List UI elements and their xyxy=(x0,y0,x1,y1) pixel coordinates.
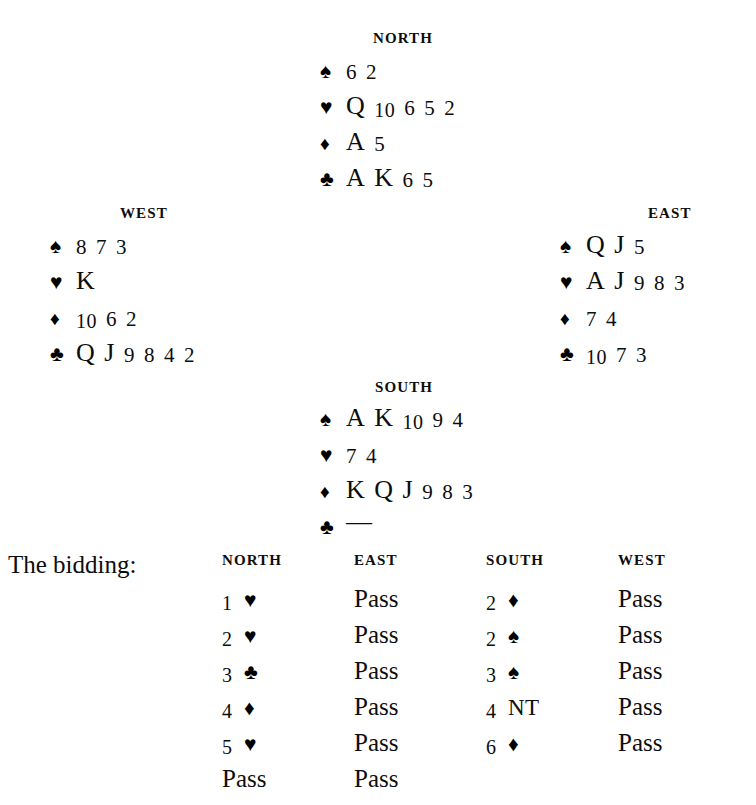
bidding-header-row: NORTHEASTSOUTHWEST xyxy=(222,552,750,585)
bidding-column-header-north: NORTH xyxy=(222,552,354,569)
bid-cell: Pass xyxy=(618,585,750,613)
south-label: SOUTH xyxy=(375,379,433,396)
card-ranks: 873 xyxy=(76,230,136,260)
bid-cell: 3♠ xyxy=(486,660,618,685)
diamond-icon: ♦ xyxy=(320,134,346,153)
card-rank: K xyxy=(374,163,393,193)
suit-row-spade: ♠62 xyxy=(320,55,464,91)
card-rank: A xyxy=(346,127,365,157)
bid-cell: Pass xyxy=(222,765,354,793)
spade-icon: ♠ xyxy=(50,236,76,257)
card-rank: A xyxy=(346,163,365,193)
card-ranks: QJ9842 xyxy=(76,338,204,368)
spade-icon: ♠ xyxy=(560,236,586,257)
bid-denomination-nt: NT xyxy=(508,695,540,721)
diamond-icon: ♦ xyxy=(244,696,255,721)
card-ranks: 1073 xyxy=(586,338,656,368)
card-rank: A xyxy=(346,403,365,433)
bidding-row: 3♣Pass3♠Pass xyxy=(222,657,750,693)
bidding-row: 1♥Pass2♦Pass xyxy=(222,585,750,621)
card-rank: 2 xyxy=(366,60,377,85)
heart-icon: ♥ xyxy=(244,624,256,649)
suit-row-spade: ♠873 xyxy=(50,230,204,266)
diamond-icon: ♦ xyxy=(50,309,76,328)
bid-level: 2 xyxy=(222,628,232,651)
suit-row-club: ♣AK65 xyxy=(320,163,464,199)
spade-icon: ♠ xyxy=(508,660,519,685)
bidding-table: NORTHEASTSOUTHWEST 1♥Pass2♦Pass2♥Pass2♠P… xyxy=(222,552,750,801)
card-rank: 5 xyxy=(634,235,645,260)
east-label: EAST xyxy=(648,205,692,222)
south-hand: ♠AK1094♥74♦KQJ983♣— xyxy=(320,403,482,547)
bid-level: 6 xyxy=(486,736,496,759)
bid-cell: Pass xyxy=(618,621,750,649)
suit-row-diamond: ♦KQJ983 xyxy=(320,475,482,511)
card-rank: J xyxy=(614,266,625,296)
suit-row-spade: ♠QJ5 xyxy=(560,230,694,266)
bid-cell: Pass xyxy=(354,765,486,793)
suit-row-heart: ♥Q10652 xyxy=(320,91,464,127)
card-ranks: QJ5 xyxy=(586,230,654,260)
bid-level: 5 xyxy=(222,736,232,759)
card-rank: Q xyxy=(346,91,365,121)
card-rank: 10 xyxy=(76,310,97,333)
card-rank: 9 xyxy=(124,343,135,368)
suit-row-club: ♣QJ9842 xyxy=(50,338,204,374)
card-rank: J xyxy=(614,230,625,260)
bid-cell: 6♦ xyxy=(486,732,618,757)
club-icon: ♣ xyxy=(560,344,586,365)
bidding-column-header-west: WEST xyxy=(618,552,750,569)
bid-cell: 2♠ xyxy=(486,624,618,649)
card-rank: 5 xyxy=(423,168,434,193)
card-rank: A xyxy=(586,266,605,296)
suit-row-heart: ♥74 xyxy=(320,439,482,475)
bid-cell: 2♥ xyxy=(222,624,354,649)
north-label: NORTH xyxy=(373,30,433,47)
bid-pass: Pass xyxy=(618,693,662,721)
west-hand: ♠873♥K♦1062♣QJ9842 xyxy=(50,230,204,374)
card-rank: 10 xyxy=(586,346,607,369)
diamond-icon: ♦ xyxy=(560,309,586,328)
card-ranks: 1062 xyxy=(76,302,146,332)
bidding-row: 2♥Pass2♠Pass xyxy=(222,621,750,657)
club-icon: ♣ xyxy=(320,517,346,538)
card-rank: 4 xyxy=(453,408,464,433)
bid-level: 2 xyxy=(486,592,496,615)
card-rank: 8 xyxy=(442,480,453,505)
bidding-row: 4♦Pass4NTPass xyxy=(222,693,750,729)
bid-pass: Pass xyxy=(222,765,266,793)
suit-row-club: ♣1073 xyxy=(560,338,694,374)
suit-row-heart: ♥AJ983 xyxy=(560,266,694,302)
card-rank: 3 xyxy=(636,343,647,368)
card-ranks: Q10652 xyxy=(346,91,464,121)
club-icon: ♣ xyxy=(244,660,258,685)
bid-cell: Pass xyxy=(618,657,750,685)
card-rank: 6 xyxy=(403,168,414,193)
bidding-body: 1♥Pass2♦Pass2♥Pass2♠Pass3♣Pass3♠Pass4♦Pa… xyxy=(222,585,750,801)
heart-icon: ♥ xyxy=(320,97,346,118)
card-rank: 2 xyxy=(444,96,455,121)
suit-row-diamond: ♦1062 xyxy=(50,302,204,338)
card-rank: 9 xyxy=(634,271,645,296)
card-rank: 5 xyxy=(374,132,385,157)
card-rank: 3 xyxy=(116,235,127,260)
heart-icon: ♥ xyxy=(320,445,346,466)
bid-level: 4 xyxy=(486,700,496,723)
card-ranks: AJ983 xyxy=(586,266,694,296)
card-rank: 3 xyxy=(462,480,473,505)
diamond-icon: ♦ xyxy=(508,732,519,757)
card-ranks: A5 xyxy=(346,127,394,157)
heart-icon: ♥ xyxy=(50,272,76,293)
card-rank: K xyxy=(346,475,365,505)
card-rank: J xyxy=(104,338,115,368)
bid-level: 3 xyxy=(486,664,496,687)
card-ranks: — xyxy=(346,511,381,541)
card-ranks: AK1094 xyxy=(346,403,473,433)
card-rank: 7 xyxy=(616,343,627,368)
bid-pass: Pass xyxy=(618,585,662,613)
suit-row-club: ♣— xyxy=(320,511,482,547)
east-hand: ♠QJ5♥AJ983♦74♣1073 xyxy=(560,230,694,374)
bid-cell: 4NT xyxy=(486,695,618,721)
card-rank: 2 xyxy=(126,307,137,332)
card-rank: 6 xyxy=(106,307,117,332)
